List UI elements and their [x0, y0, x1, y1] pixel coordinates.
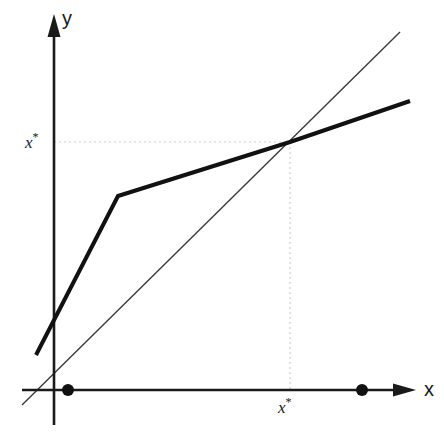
y-fixed-point-base: x	[25, 133, 33, 152]
x-axis-dot-left	[62, 384, 74, 396]
x-fixed-point-asterisk: *	[286, 395, 292, 409]
x-axis-fixed-point-label: x*	[278, 399, 292, 416]
y-axis-arrow-icon	[48, 14, 61, 37]
y-axis-label: y	[62, 8, 72, 28]
map-function-curve	[36, 101, 410, 355]
identity-line	[22, 32, 400, 405]
x-fixed-point-base: x	[278, 398, 286, 417]
x-axis-arrow-icon	[393, 384, 416, 397]
x-axis-dot-right	[356, 384, 368, 396]
y-fixed-point-asterisk: *	[33, 130, 39, 144]
x-axis-label: x	[424, 379, 434, 399]
fixed-point-plot	[0, 0, 444, 435]
y-axis-fixed-point-label: x*	[25, 134, 39, 151]
figure-canvas: y x x* x*	[0, 0, 444, 435]
